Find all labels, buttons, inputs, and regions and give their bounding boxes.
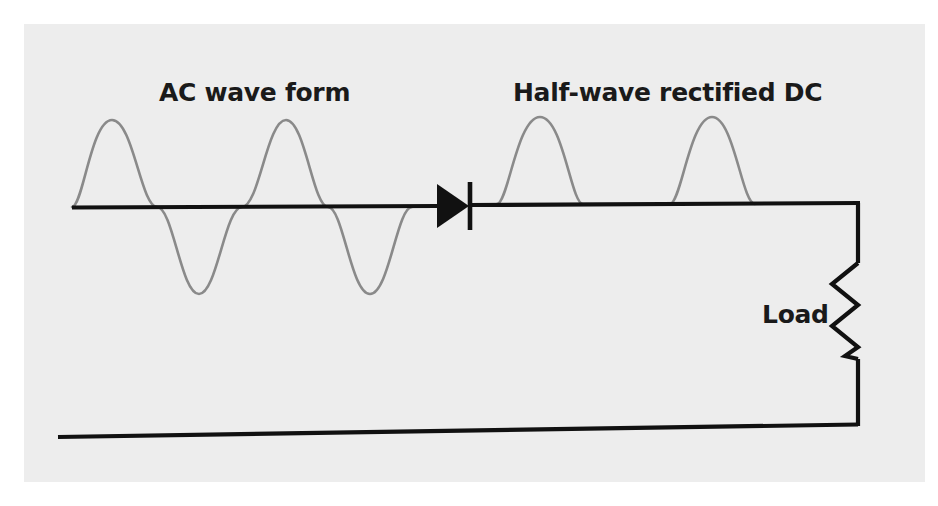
- top-wire-right-segment: [470, 203, 860, 205]
- load-label: Load: [762, 300, 829, 329]
- ac-waveform-label: AC wave form: [159, 78, 350, 107]
- diode-symbol: [437, 182, 470, 230]
- conductor-group: [58, 203, 860, 437]
- rectified-dc-waveform-curve: [497, 117, 755, 204]
- rectified-dc-waveform-label: Half-wave rectified DC: [513, 78, 822, 107]
- circuit-diagram-svg: [0, 0, 938, 506]
- top-wire-left-segment: [72, 206, 438, 208]
- diode-triangle-icon: [437, 184, 469, 228]
- load-resistor-symbol: [832, 263, 858, 359]
- bottom-return-wire: [58, 425, 858, 438]
- figure-root: AC wave form Half-wave rectified DC Load: [0, 0, 938, 506]
- resistor-zigzag-icon: [832, 263, 858, 359]
